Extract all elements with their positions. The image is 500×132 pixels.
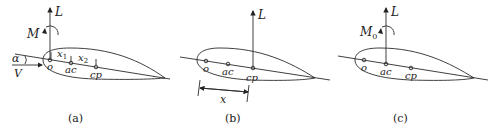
moment-arrow-icon xyxy=(42,28,47,34)
lift-label: L xyxy=(390,5,399,19)
point-o-label: o xyxy=(361,62,367,73)
lift-label: L xyxy=(257,8,266,22)
caption-c: (c) xyxy=(393,112,408,125)
panel-b: L o ac cp x (b) xyxy=(180,8,330,125)
velocity-label: V xyxy=(14,67,23,80)
caption-a: (a) xyxy=(68,112,83,125)
distance-label: x xyxy=(220,93,227,106)
point-cp-label: cp xyxy=(246,72,259,83)
panel-a: L M α V x1 x2 o ac cp (a) xyxy=(12,5,170,125)
angle-arc xyxy=(25,56,26,64)
point-cp-label: cp xyxy=(90,69,103,80)
airfoil-diagrams: L M α V x1 x2 o ac cp (a) L o ac cp xyxy=(0,0,500,132)
point-ac-label: ac xyxy=(65,64,77,75)
x2-label: x2 xyxy=(78,52,88,65)
dim-tick-right xyxy=(247,85,249,102)
dim-line-rev xyxy=(200,88,248,92)
dim-tick-left xyxy=(198,80,200,96)
panel-c: L M0 o ac cp (c) xyxy=(338,5,488,125)
moment-arc xyxy=(382,26,394,35)
point-o-label: o xyxy=(203,63,209,74)
point-o-label: o xyxy=(47,61,53,72)
moment-arrow-icon xyxy=(378,28,383,34)
angle-label: α xyxy=(12,52,20,65)
lift-label: L xyxy=(54,5,63,19)
caption-b: (b) xyxy=(225,112,241,125)
x1-label: x1 xyxy=(57,48,67,61)
moment-label: M0 xyxy=(359,25,377,41)
moment-label: M xyxy=(26,27,40,41)
point-ac-label: ac xyxy=(380,66,392,77)
point-cp-label: cp xyxy=(405,70,418,81)
moment-arc xyxy=(46,26,58,35)
point-ac-label: ac xyxy=(222,66,234,77)
